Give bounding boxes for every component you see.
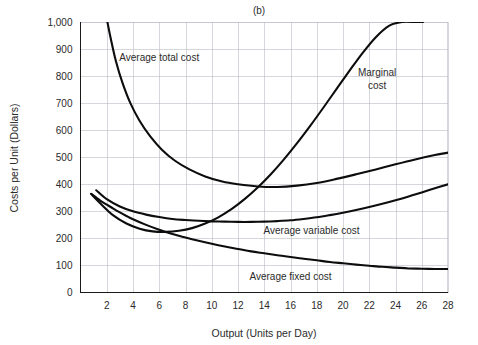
y-tick-label-0: 0 <box>67 287 73 298</box>
y-tick-label-500: 500 <box>56 152 73 163</box>
x-tick-label-12: 12 <box>232 300 244 311</box>
y-tick-label-600: 600 <box>56 125 73 136</box>
x-tick-label-24: 24 <box>390 300 402 311</box>
panel-title: (b) <box>253 5 265 16</box>
curve-average-total-cost <box>107 22 448 187</box>
x-tick-label-20: 20 <box>337 300 349 311</box>
y-tick-label-900: 900 <box>56 44 73 55</box>
y-tick-label-200: 200 <box>56 233 73 244</box>
cost-curves-figure: (b) 01002003004005006007008009001,000 24… <box>0 0 478 345</box>
x-axis-title: Output (Units per Day) <box>211 327 316 339</box>
x-tick-label-14: 14 <box>259 300 271 311</box>
y-axis-tick-labels: 01002003004005006007008009001,000 <box>47 17 72 299</box>
curve-labels-group: Average total costMarginalcostAverage va… <box>119 52 396 281</box>
x-tick-label-8: 8 <box>183 300 189 311</box>
chart-canvas: (b) 01002003004005006007008009001,000 24… <box>0 0 478 345</box>
x-tick-label-10: 10 <box>206 300 218 311</box>
x-tick-label-2: 2 <box>104 300 110 311</box>
y-tick-label-100: 100 <box>56 260 73 271</box>
y-tick-label-300: 300 <box>56 206 73 217</box>
curve-label-marginal-cost-line2: cost <box>368 80 387 91</box>
x-tick-label-26: 26 <box>416 300 428 311</box>
y-tick-label-800: 800 <box>56 71 73 82</box>
curve-label-average-fixed-cost: Average fixed cost <box>249 271 331 282</box>
x-tick-label-22: 22 <box>364 300 376 311</box>
x-tick-label-18: 18 <box>311 300 323 311</box>
x-tick-label-6: 6 <box>156 300 162 311</box>
y-tick-label-700: 700 <box>56 98 73 109</box>
curve-average-variable-cost <box>96 184 448 222</box>
y-tick-label-1000: 1,000 <box>47 17 72 28</box>
curve-label-average-variable-cost: Average variable cost <box>264 225 360 236</box>
curve-label-marginal-cost: Marginal <box>358 67 396 78</box>
y-axis-title: Costs per Unit (Dollars) <box>8 103 20 212</box>
x-tick-label-4: 4 <box>130 300 136 311</box>
x-tick-label-16: 16 <box>285 300 297 311</box>
x-tick-label-28: 28 <box>442 300 454 311</box>
curve-label-average-total-cost: Average total cost <box>119 52 199 63</box>
y-tick-label-400: 400 <box>56 179 73 190</box>
x-axis-tick-labels: 246810121416182022242628 <box>104 300 454 311</box>
